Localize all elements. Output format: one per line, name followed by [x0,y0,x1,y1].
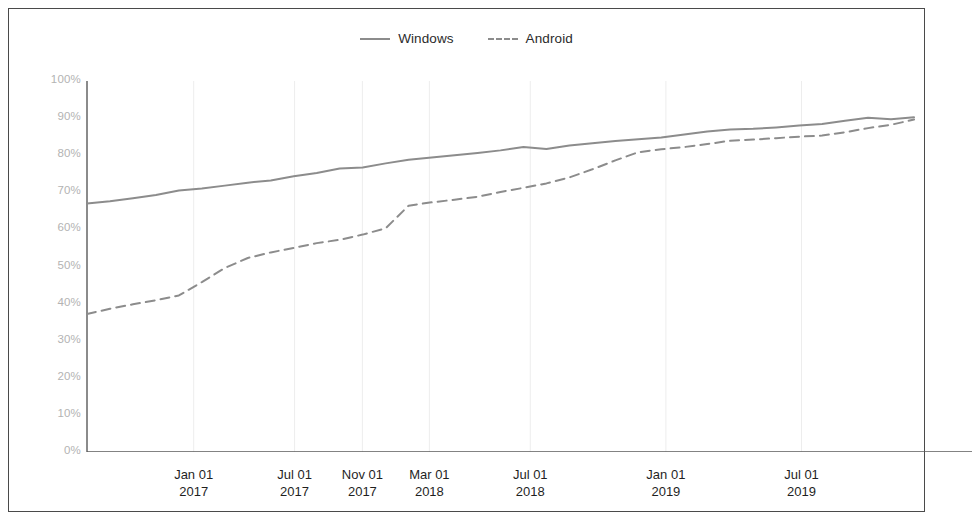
x-axis-tick-label: Jan 012019 [611,466,721,500]
x-tick-year: 2018 [374,483,484,500]
x-tick-date: Mar 01 [409,467,449,482]
x-tick-date: Jan 01 [174,467,213,482]
x-axis-tick-label: Jul 012018 [475,466,585,500]
x-axis-labels: Jan 012017Jul 012017Nov 012017Mar 012018… [9,9,926,513]
x-tick-year: 2018 [475,483,585,500]
x-tick-date: Jul 01 [513,467,548,482]
x-axis-tick-label: Jan 012017 [139,466,249,500]
x-axis-tick-label: Jul 012019 [747,466,857,500]
chart-figure: Windows Android 100%90%80%70%60%50%40%30… [8,8,925,512]
x-tick-date: Jan 01 [646,467,685,482]
x-tick-date: Jul 01 [784,467,819,482]
x-tick-year: 2019 [747,483,857,500]
x-tick-year: 2019 [611,483,721,500]
x-tick-year: 2017 [139,483,249,500]
x-axis-tick-label: Mar 012018 [374,466,484,500]
